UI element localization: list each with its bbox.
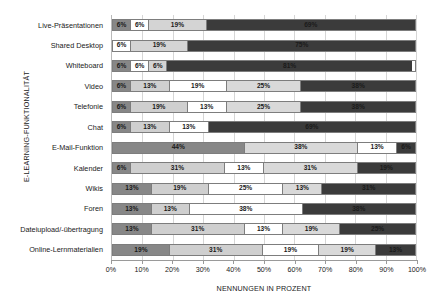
bar-segment: 19% [283,224,340,234]
bar-segment: 6% [113,122,131,132]
bar-segment: 13% [358,143,397,153]
stacked-bar-chart: E-LEARNING-FUNKTIONALITÄT Live-Präsentat… [0,0,428,305]
x-tick [386,260,387,264]
bar-segment: 69% [207,20,415,30]
bar-segment: 31% [170,245,263,255]
category-label: Shared Desktop [20,35,107,55]
x-tick-label: 30% [196,266,210,274]
gridline [416,15,417,260]
bar-row: 6%6%6%81% [112,56,416,76]
bar-segment: 31% [152,224,245,234]
bar-segment: 25% [227,102,302,112]
bar-segment: 13% [245,224,284,234]
stacked-bar: 13%19%25%13%31% [112,183,416,195]
bar-segment: 6% [113,81,131,91]
stacked-bar: 13%13%38%38% [112,203,416,215]
category-label: Wikis [20,178,107,198]
bar-segment: 6% [131,20,149,30]
category-label: Chat [20,117,107,137]
bar-segment: 13% [152,204,191,214]
stacked-bar: 6%31%13%31%19% [112,162,416,174]
bar-segment: 19% [149,20,206,30]
stacked-bar: 6%6%19%69% [112,19,416,31]
bar-segment: 31% [131,163,225,173]
bar-segment: 25% [340,224,415,234]
bar-segment: 6% [131,61,149,71]
stacked-bar: 6%13%19%25%38% [112,80,416,92]
bar-segment: 6% [113,61,131,71]
bar-segment: 81% [167,61,412,71]
category-label: E-Mail-Funktion [20,138,107,158]
x-tick [142,260,143,264]
bar-segment: 19% [131,102,188,112]
x-tick [233,260,234,264]
bar-row: 44%38%13%6% [112,138,416,158]
bar-segment: 6% [113,102,131,112]
stacked-bar: 6%6%6%81% [112,60,416,72]
x-tick [203,260,204,264]
bar-segment: 25% [209,184,284,194]
x-tick-label: 10% [134,266,148,274]
x-tick-label: 40% [226,266,240,274]
bar-segment: 6% [113,163,131,173]
bar-segment: 38% [301,102,415,112]
bar-row: 13%13%38%38% [112,199,416,219]
bar-row: 13%19%25%13%31% [112,178,416,198]
bar-segment: 13% [113,184,152,194]
category-label: Kalender [20,158,107,178]
x-tick-label: 80% [349,266,363,274]
bar-segment: 13% [170,122,209,132]
x-axis-tick-labels: 0%10%20%30%40%50%60%70%80%90%100% [111,266,417,278]
bar-row: 13%31%13%19%25% [112,219,416,239]
category-label-column: Live-PräsentationenShared DesktopWhitebo… [20,15,107,260]
x-tick-label: 60% [287,266,301,274]
x-tick [111,260,112,264]
bar-segment: 19% [319,245,376,255]
x-tick-label: 0% [106,266,116,274]
bar-segment: 19% [131,41,188,51]
x-axis-ticks [111,260,417,264]
bar-segment: 13% [131,122,170,132]
x-tick-label: 70% [318,266,332,274]
x-axis-title: NENNUNGEN IN PROZENT [111,284,417,293]
bar-segment: 75% [188,41,415,51]
bar-segment: 38% [303,204,416,214]
bar-segment: 38% [245,143,359,153]
bar-segment: 13% [188,102,227,112]
bar-segment: 19% [152,184,209,194]
bar-row: 6%6%19%69% [112,15,416,35]
category-label: Dateiupload/-übertragung [20,219,107,239]
bar-segment: 69% [209,122,415,132]
stacked-bar: 19%31%19%19%13% [112,244,416,256]
bar-segment: 19% [263,245,320,255]
bar-segment: 6% [149,61,167,71]
bar-segment: 31% [322,184,415,194]
x-tick-label: 90% [379,266,393,274]
bar-segment: 44% [113,143,245,153]
stacked-bar: 44%38%13%6% [112,142,416,154]
bar-segment: 19% [113,245,170,255]
bar-segment: 19% [358,163,415,173]
category-label: Foren [20,199,107,219]
x-tick [295,260,296,264]
stacked-bar: 13%31%13%19%25% [112,223,416,235]
bar-segment: 13% [376,245,415,255]
category-label: Video [20,76,107,96]
category-label: Online-Lernmaterialien [20,240,107,260]
plot-area: 6%6%19%69%6%19%75%6%6%6%81%6%13%19%25%38… [111,15,417,260]
bar-segment: 31% [264,163,358,173]
x-tick-label: 20% [165,266,179,274]
bar-segment: 38% [190,204,303,214]
bar-segment: 13% [283,184,322,194]
bar-row: 6%13%19%25%38% [112,76,416,96]
bar-row: 19%31%19%19%13% [112,240,416,260]
x-tick [172,260,173,264]
stacked-bar: 6%19%13%25%38% [112,101,416,113]
bar-segment: 19% [170,81,227,91]
x-tick [325,260,326,264]
category-label: Telefonie [20,97,107,117]
bar-segment: 13% [113,224,152,234]
x-tick [356,260,357,264]
x-tick-label: 100% [408,266,426,274]
x-tick-label: 50% [257,266,271,274]
